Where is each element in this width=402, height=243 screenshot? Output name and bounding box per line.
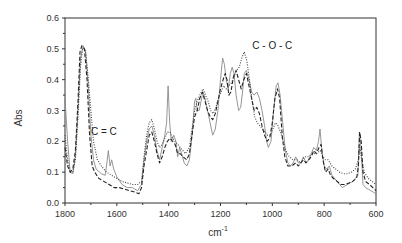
ftir-spectrum-chart: 0.00.10.20.30.40.50.6 180016001400120010… — [0, 0, 402, 243]
series-dotted — [65, 49, 376, 185]
y-tick-label: 0.6 — [46, 13, 59, 23]
y-tick-label: 0.5 — [46, 44, 59, 54]
x-tick-label: 1200 — [210, 209, 230, 219]
x-axis: 18001600140012001000800600 — [55, 203, 384, 219]
y-axis: 0.00.10.20.30.40.50.6 — [46, 13, 65, 208]
spectrum-series — [65, 46, 376, 194]
y-tick-label: 0.4 — [46, 75, 59, 85]
peak-annotation: C - O - C — [252, 40, 292, 51]
x-tick-label: 1000 — [262, 209, 282, 219]
series-dashed — [65, 46, 376, 194]
peak-annotation: C = C — [91, 126, 117, 137]
x-tick-label: 800 — [317, 209, 332, 219]
y-tick-label: 0.0 — [46, 198, 59, 208]
plot-frame — [65, 18, 376, 203]
y-tick-label: 0.2 — [46, 136, 59, 146]
x-tick-label: 600 — [368, 209, 383, 219]
x-axis-label: cm-1 — [208, 225, 228, 238]
x-tick-label: 1400 — [159, 209, 179, 219]
y-axis-label: Abs — [13, 109, 24, 126]
x-tick-label: 1800 — [55, 209, 75, 219]
x-tick-label: 1600 — [107, 209, 127, 219]
y-tick-label: 0.1 — [46, 167, 59, 177]
y-tick-label: 0.3 — [46, 106, 59, 116]
peak-annotations: C = CC - O - C — [91, 40, 292, 137]
